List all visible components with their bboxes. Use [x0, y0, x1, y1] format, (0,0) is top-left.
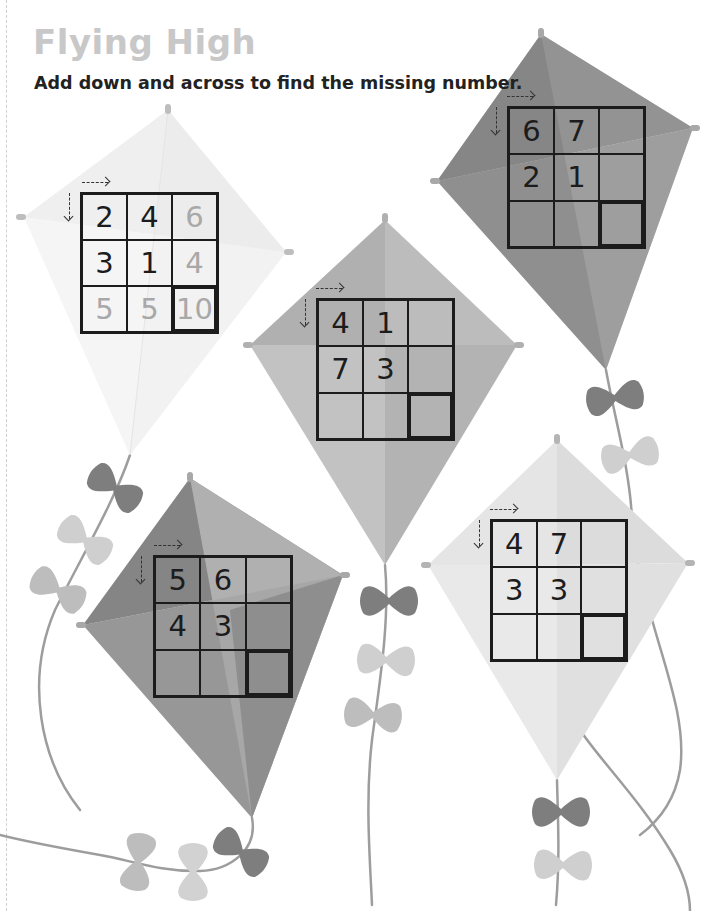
grid-cell: 3 [537, 567, 582, 613]
total-input-cell[interactable] [408, 393, 453, 439]
column-sum-input-cell[interactable] [363, 393, 408, 439]
kite-grid-example: 2 4 6 3 1 4 5 5 10 [80, 192, 219, 334]
column-sum-input-cell[interactable] [537, 614, 582, 660]
row-sum-input-cell[interactable] [581, 521, 626, 567]
total-input-cell[interactable] [581, 614, 626, 660]
grid-cell: 1 [363, 300, 408, 346]
grid-cell: 1 [554, 154, 599, 200]
grid-cell: 2 [509, 154, 554, 200]
grid-cell: 4 [492, 521, 537, 567]
instruction-text: Add down and across to find the missing … [34, 71, 522, 95]
grid-cell: 3 [200, 603, 245, 649]
grid-cell: 5 [155, 557, 200, 603]
column-sum-input-cell[interactable] [492, 614, 537, 660]
grid-cell: 4 [127, 194, 172, 240]
column-sum-input-cell[interactable] [200, 650, 245, 696]
down-arrow-icon [496, 107, 497, 133]
row-sum-cell: 4 [172, 240, 217, 286]
down-arrow-icon [305, 299, 306, 325]
across-arrow-icon [507, 96, 533, 97]
row-sum-input-cell[interactable] [581, 567, 626, 613]
total-cell: 10 [172, 286, 217, 332]
row-sum-input-cell[interactable] [599, 108, 644, 154]
row-sum-input-cell[interactable] [246, 557, 291, 603]
grid-cell: 3 [82, 240, 127, 286]
down-arrow-icon [141, 556, 142, 582]
kite-c-string [368, 565, 386, 905]
total-input-cell[interactable] [246, 650, 291, 696]
grid-cell: 2 [82, 194, 127, 240]
grid-cell: 7 [554, 108, 599, 154]
worksheet-page: Flying High Add down and across to find … [0, 0, 714, 911]
kite-grid-bottom-left: 5 6 4 3 [153, 555, 293, 698]
kite-grid-center: 4 1 7 3 [316, 298, 455, 441]
total-input-cell[interactable] [599, 201, 644, 247]
row-sum-input-cell[interactable] [246, 603, 291, 649]
column-sum-cell: 5 [127, 286, 172, 332]
kite-grid-top-right: 6 7 2 1 [507, 106, 646, 249]
grid-cell: 6 [509, 108, 554, 154]
row-sum-input-cell[interactable] [599, 154, 644, 200]
row-sum-cell: 6 [172, 194, 217, 240]
row-sum-input-cell[interactable] [408, 346, 453, 392]
grid-cell: 1 [127, 240, 172, 286]
column-sum-input-cell[interactable] [155, 650, 200, 696]
across-arrow-icon [82, 182, 108, 183]
row-sum-input-cell[interactable] [408, 300, 453, 346]
grid-cell: 6 [200, 557, 245, 603]
kite-e-string [556, 780, 558, 905]
across-arrow-icon [154, 545, 180, 546]
column-sum-input-cell[interactable] [509, 201, 554, 247]
grid-cell: 3 [492, 567, 537, 613]
page-title: Flying High [33, 22, 256, 62]
across-arrow-icon [490, 509, 516, 510]
grid-cell: 4 [155, 603, 200, 649]
grid-cell: 4 [318, 300, 363, 346]
across-arrow-icon [316, 288, 342, 289]
column-sum-input-cell[interactable] [554, 201, 599, 247]
kite-grid-bottom-right: 4 7 3 3 [490, 519, 628, 662]
grid-cell: 7 [318, 346, 363, 392]
grid-cell: 7 [537, 521, 582, 567]
down-arrow-icon [69, 193, 70, 219]
column-sum-cell: 5 [82, 286, 127, 332]
column-sum-input-cell[interactable] [318, 393, 363, 439]
down-arrow-icon [479, 520, 480, 546]
grid-cell: 3 [363, 346, 408, 392]
